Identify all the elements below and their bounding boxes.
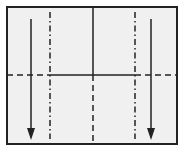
fold-diagram-canvas [0, 0, 179, 158]
fold-diagram [0, 0, 179, 158]
